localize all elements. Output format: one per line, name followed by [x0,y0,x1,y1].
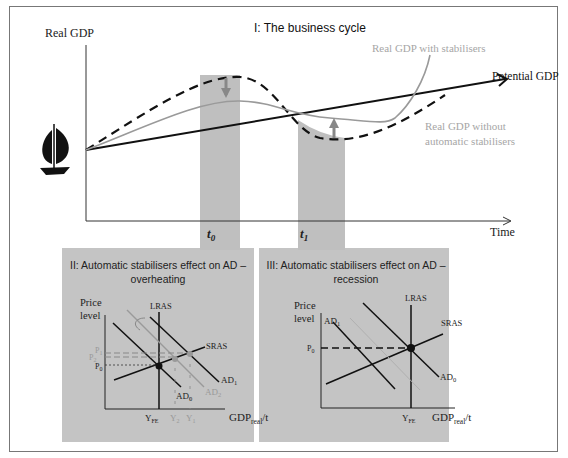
panel-title-overheating-1: II: Automatic stabilisers effect on AD – [70,259,246,271]
panel-title-overheating-2: overheating [131,273,186,285]
y-label-level: level [294,313,314,324]
panel-title-business-cycle: I: The business cycle [254,21,366,35]
label-without-stabilisers-1: Real GDP without [425,120,506,132]
lras-label: LRAS [405,293,427,303]
equilibrium-dot [407,344,415,352]
y-label-price: Price [80,297,102,308]
gdp-with-stabilisers-curve [86,55,430,150]
equilibrium-dot [156,363,163,370]
gdp-without-stabilisers-curve [86,77,445,150]
label-without-stabilisers-2: automatic stabilisers [425,135,515,147]
y-axis-label: Real GDP [45,26,94,40]
business-cycle-figure: Real GDP I: The business cycle Real GDP … [0,0,568,458]
y-label-price: Price [294,300,316,311]
lras-label: LRAS [150,301,172,311]
panel-title-recession-1: III: Automatic stabilisers effect on AD … [267,259,446,271]
panel-title-recession-2: recession [334,273,379,285]
sailboat-icon [40,124,70,175]
x-axis-label: Time [490,225,515,239]
label-with-stabilisers: Real GDP with stabilisers [372,42,486,54]
sras-label: SRAS [441,318,463,328]
ad0-label: AD0 [440,372,456,383]
y-label-level: level [80,310,100,321]
label-potential-gdp: Potential GDP [492,70,559,82]
sras-label: SRAS [206,341,228,351]
